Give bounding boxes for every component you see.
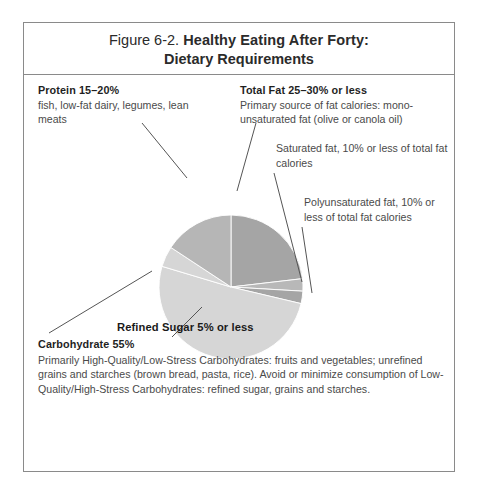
annotation-polyunsaturated-fat: Polyunsaturated fat, 10% or less of tota… <box>304 195 456 224</box>
annotation-total-fat-heading: Total Fat 25–30% or less <box>240 83 455 98</box>
annotation-total-fat: Total Fat 25–30% or less Primary source … <box>240 83 455 127</box>
annotation-protein-body: fish, low-fat dairy, legumes, lean meats <box>38 98 213 127</box>
annotation-saturated-fat: Saturated fat, 10% or less of total fat … <box>276 141 456 170</box>
pie-chart <box>24 75 456 472</box>
leader-line-protein <box>142 123 187 178</box>
figure-title-line-1: Figure 6-2. Healthy Eating After Forty: <box>109 31 369 50</box>
figure-number: Figure 6-2. <box>109 32 179 48</box>
leader-line-total-fat <box>237 123 256 191</box>
annotation-carbohydrate-body: Primarily High-Quality/Low-Stress Carboh… <box>38 353 444 397</box>
annotation-carbohydrate: Carbohydrate 55% Primarily High-Quality/… <box>38 337 444 396</box>
annotation-polyunsaturated-fat-body: Polyunsaturated fat, 10% or less of tota… <box>304 195 456 224</box>
annotation-protein-heading: Protein 15–20% <box>38 83 213 98</box>
figure-title-band: Figure 6-2. Healthy Eating After Forty: … <box>24 23 454 75</box>
figure-body: Protein 15–20% fish, low-fat dairy, legu… <box>24 75 456 472</box>
annotation-saturated-fat-body: Saturated fat, 10% or less of total fat … <box>276 141 456 170</box>
annotation-carbohydrate-heading: Carbohydrate 55% <box>38 337 444 352</box>
figure-title-line-2: Dietary Requirements <box>164 50 314 69</box>
leader-line-polyunsaturated-fat <box>302 227 312 293</box>
annotation-total-fat-body: Primary source of fat calories: mono-uns… <box>240 98 455 127</box>
pie-slice <box>231 215 303 287</box>
figure-frame: Figure 6-2. Healthy Eating After Forty: … <box>23 22 455 472</box>
annotation-protein: Protein 15–20% fish, low-fat dairy, legu… <box>38 83 213 127</box>
annotation-refined-sugar-label: Refined Sugar 5% or less <box>117 321 254 333</box>
figure-title-main: Healthy Eating After Forty: <box>183 32 369 48</box>
